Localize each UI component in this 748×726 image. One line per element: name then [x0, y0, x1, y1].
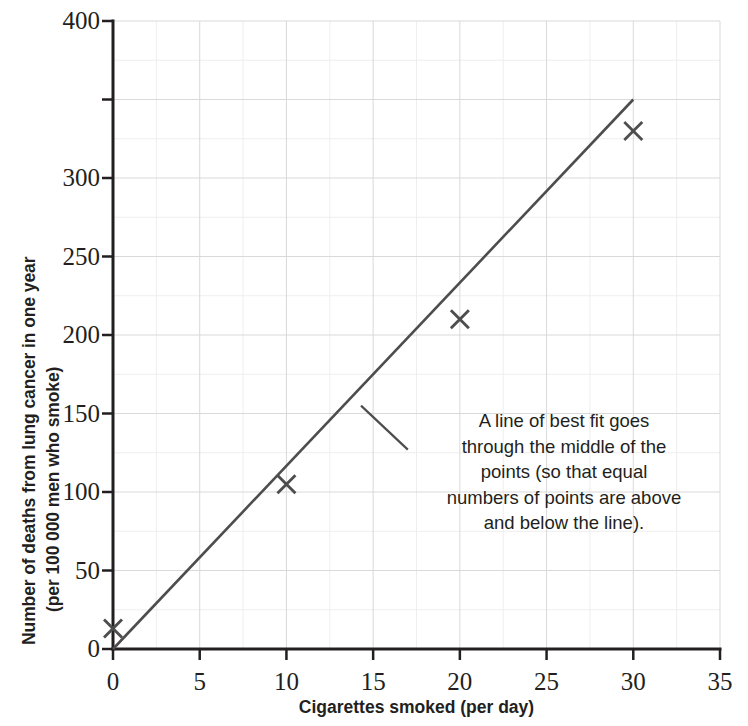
annotation-line: and below the line).	[408, 510, 720, 536]
chart-container: Number of deaths from lung cancer in one…	[0, 0, 748, 726]
plot-area	[0, 0, 748, 726]
annotation-line: points (so that equal	[408, 459, 720, 485]
annotation-line: A line of best fit goes	[408, 408, 720, 434]
annotation-leader-line	[361, 406, 408, 450]
annotation-line: through the middle of the	[408, 434, 720, 460]
annotation-line: numbers of points are above	[408, 485, 720, 511]
x-axis-title: Cigarettes smoked (per day)	[113, 697, 720, 717]
annotation-text-block: A line of best fit goesthrough the middl…	[408, 408, 720, 536]
